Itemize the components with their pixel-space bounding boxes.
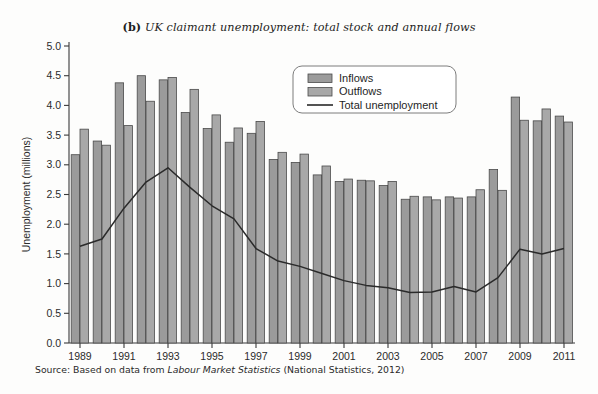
x-tick-label: 2009 [508, 350, 532, 362]
y-tick-label: 1.0 [46, 277, 61, 289]
x-tick-label: 1999 [288, 350, 312, 362]
bar-inflows-2005 [423, 197, 431, 343]
bar-outflows-1991 [124, 126, 132, 343]
y-tick-label: 2.5 [46, 188, 61, 200]
y-tick-label: 2.0 [46, 218, 61, 230]
x-tick-label: 2001 [332, 350, 356, 362]
bar-inflows-1998 [269, 159, 277, 343]
bar-inflows-2010 [533, 121, 541, 343]
bar-inflows-1989 [71, 155, 79, 343]
x-axis: 1989199119931995199719992001200320052007… [68, 343, 575, 362]
bar-outflows-1996 [234, 128, 242, 343]
y-tick-label: 5.0 [46, 40, 61, 52]
x-tick-label: 1991 [112, 350, 136, 362]
legend-label-total-unemployment: Total unemployment [339, 99, 437, 111]
bar-outflows-2003 [388, 181, 396, 343]
source-prefix: Source: Based on data from [35, 364, 165, 375]
bar-outflows-1992 [146, 101, 154, 343]
bar-inflows-2008 [489, 170, 497, 343]
y-tick-label: 4.5 [46, 69, 61, 81]
bar-inflows-1991 [115, 83, 123, 343]
x-tick-label: 2007 [464, 350, 488, 362]
y-tick-label: 3.0 [46, 158, 61, 170]
bar-inflows-1999 [291, 162, 299, 343]
bar-inflows-2011 [555, 116, 563, 343]
bar-outflows-1997 [256, 121, 264, 343]
bar-outflows-2007 [476, 190, 484, 343]
y-tick-label: 1.5 [46, 248, 61, 260]
bar-outflows-1989 [80, 129, 88, 343]
bar-outflows-2002 [366, 181, 374, 343]
figure-container: (b) UK claimant unemployment: total stoc… [0, 0, 598, 394]
chart-legend: InflowsOutflowsTotal unemployment [293, 66, 456, 113]
bar-outflows-2001 [344, 179, 352, 343]
bar-outflows-2009 [520, 120, 528, 343]
bar-inflows-2004 [401, 199, 409, 343]
bar-outflows-2004 [410, 196, 418, 343]
y-tick-label: 0.5 [46, 307, 61, 319]
legend-label-outflows: Outflows [339, 85, 382, 97]
bar-inflows-2007 [467, 197, 475, 343]
bar-outflows-2010 [542, 109, 550, 343]
x-tick-label: 2011 [553, 350, 576, 362]
legend-label-inflows: Inflows [339, 72, 374, 84]
x-tick-label: 1995 [200, 350, 224, 362]
bar-inflows-1992 [137, 76, 145, 343]
bar-inflows-2002 [357, 180, 365, 343]
bar-outflows-1995 [212, 115, 220, 343]
source-italic: Labour Market Statistics [168, 364, 281, 375]
bar-outflows-1990 [102, 145, 110, 343]
bar-outflows-2005 [432, 200, 440, 343]
bar-inflows-1993 [159, 80, 167, 343]
bar-inflows-2003 [379, 186, 387, 343]
y-axis-title-text: Unemployment (millions) [20, 137, 32, 253]
bar-inflows-1994 [181, 113, 189, 343]
x-tick-label: 1989 [68, 350, 92, 362]
bar-outflows-1999 [300, 154, 308, 343]
bar-outflows-2006 [454, 198, 462, 343]
bar-outflows-1994 [190, 89, 198, 343]
y-axis-title: Unemployment (millions) [20, 137, 32, 253]
bar-outflows-2011 [564, 122, 572, 343]
bar-outflows-1993 [168, 77, 176, 343]
x-tick-label: 1997 [244, 350, 268, 362]
x-tick-label: 1993 [156, 350, 180, 362]
legend-swatch-outflows [308, 88, 332, 97]
bar-outflows-2008 [498, 190, 506, 343]
bar-inflows-2000 [313, 175, 321, 343]
bar-outflows-1998 [278, 152, 286, 343]
bar-inflows-2001 [335, 181, 343, 343]
chart-plot: 0.00.51.01.52.02.53.03.54.04.55.0 198919… [0, 0, 598, 394]
bar-inflows-2009 [511, 97, 519, 343]
y-axis: 0.00.51.01.52.02.53.03.54.04.55.0 [46, 40, 69, 349]
y-tick-label: 3.5 [46, 129, 61, 141]
bar-inflows-1995 [203, 129, 211, 343]
bar-inflows-2006 [445, 197, 453, 343]
y-tick-label: 0.0 [46, 337, 61, 349]
bar-series-group [71, 76, 572, 343]
x-tick-label: 2005 [420, 350, 444, 362]
x-tick-label: 2003 [376, 350, 400, 362]
legend-swatch-inflows [308, 74, 332, 83]
source-note: Source: Based on data from Labour Market… [35, 364, 404, 375]
bar-inflows-1996 [225, 142, 233, 343]
bar-outflows-2000 [322, 166, 330, 343]
source-suffix: (National Statistics, 2012) [283, 364, 404, 375]
y-tick-label: 4.0 [46, 99, 61, 111]
